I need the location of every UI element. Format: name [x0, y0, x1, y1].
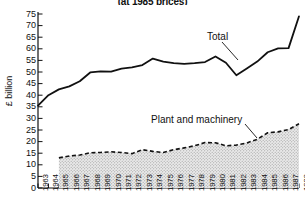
x-tick-label: 1969	[104, 174, 112, 191]
y-tick-label: 15	[22, 149, 36, 158]
x-tick-label: 1978	[198, 174, 206, 191]
x-tick-label: 1979	[209, 174, 217, 191]
chart-container: (at 1985 prices) £ billion 7570656055504…	[0, 0, 305, 218]
y-tick-label: 5	[22, 172, 36, 181]
x-tick-label: 1974	[156, 174, 164, 191]
y-tick-label: 25	[22, 126, 36, 135]
y-tick-label: 55	[22, 56, 36, 65]
y-tick-label: 35	[22, 102, 36, 111]
y-tick-label: 40	[22, 91, 36, 100]
x-tick-label: 1980	[219, 174, 227, 191]
x-tick-label: 1984	[261, 174, 269, 191]
x-tick-label: 1971	[125, 174, 133, 191]
plant-leader-line	[245, 124, 257, 138]
x-tick-label: 1965	[62, 174, 70, 191]
x-tick-label: 1968	[94, 174, 102, 191]
x-tick-label: 1972	[135, 174, 143, 191]
y-tick-label: 0	[22, 184, 36, 193]
y-tick-label: 10	[22, 160, 36, 169]
x-tick-label: 1975	[167, 174, 175, 191]
total-leader-line	[222, 42, 238, 60]
series-label-plant: Plant and machinery	[151, 114, 242, 125]
y-tick-label: 20	[22, 137, 36, 146]
y-axis-title: £ billion	[4, 61, 14, 121]
x-tick-label: 1983	[250, 174, 258, 191]
x-tick-label: 1982	[240, 174, 248, 191]
y-axis-tick-labels: 757065605550454035302520151050	[21, 0, 36, 218]
y-tick-label: 45	[22, 79, 36, 88]
x-tick-label: 1985	[271, 174, 279, 191]
x-tick-label: 1964	[52, 174, 60, 191]
x-tick-label: 1987	[292, 174, 300, 191]
x-tick-label: 1981	[229, 174, 237, 191]
y-tick-label: 30	[22, 114, 36, 123]
x-tick-label: 1988	[303, 174, 306, 191]
x-tick-label: 1973	[146, 174, 154, 191]
series-label-total: Total	[207, 31, 228, 42]
y-tick-label: 60	[22, 44, 36, 53]
x-tick-label: 1970	[115, 174, 123, 191]
chart-title: (at 1985 prices)	[0, 0, 305, 5]
y-tick-label: 50	[22, 68, 36, 77]
x-tick-label: 1977	[188, 174, 196, 191]
x-tick-label: 1967	[83, 174, 91, 191]
x-tick-label: 1966	[73, 174, 81, 191]
x-tick-label: 1963	[42, 174, 50, 191]
total-line	[38, 16, 299, 105]
y-tick-label: 65	[22, 33, 36, 42]
y-tick-label: 75	[22, 10, 36, 19]
y-tick-label: 70	[22, 21, 36, 30]
x-tick-label: 1976	[177, 174, 185, 191]
x-tick-label: 1986	[282, 174, 290, 191]
